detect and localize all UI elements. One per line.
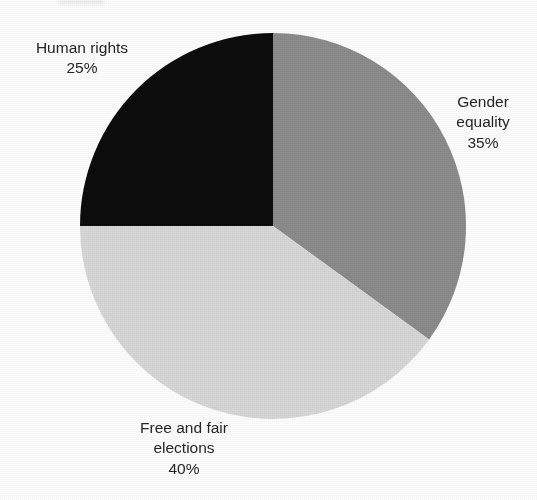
pie-label-free-and-fair-elections: Free and fair elections 40%	[108, 418, 260, 479]
pie-label-human-rights: Human rights 25%	[12, 38, 152, 79]
pie-label-gender-equality: Gender equality 35%	[430, 92, 536, 153]
pie-label-human-rights-line-1: Human rights	[12, 38, 152, 58]
pie-label-human-rights-value: 25%	[12, 58, 152, 78]
pie-slices	[80, 33, 466, 419]
pie-label-free-and-fair-elections-line-2: elections	[108, 438, 260, 458]
pie-label-gender-equality-line-2: equality	[430, 112, 536, 132]
pie-label-free-and-fair-elections-line-1: Free and fair	[108, 418, 260, 438]
pie-label-gender-equality-value: 35%	[430, 133, 536, 153]
pie-label-free-and-fair-elections-value: 40%	[108, 459, 260, 479]
pie-label-gender-equality-line-1: Gender	[430, 92, 536, 112]
pie-chart-figure: Human rights 25% Gender equality 35% Fre…	[0, 0, 537, 500]
